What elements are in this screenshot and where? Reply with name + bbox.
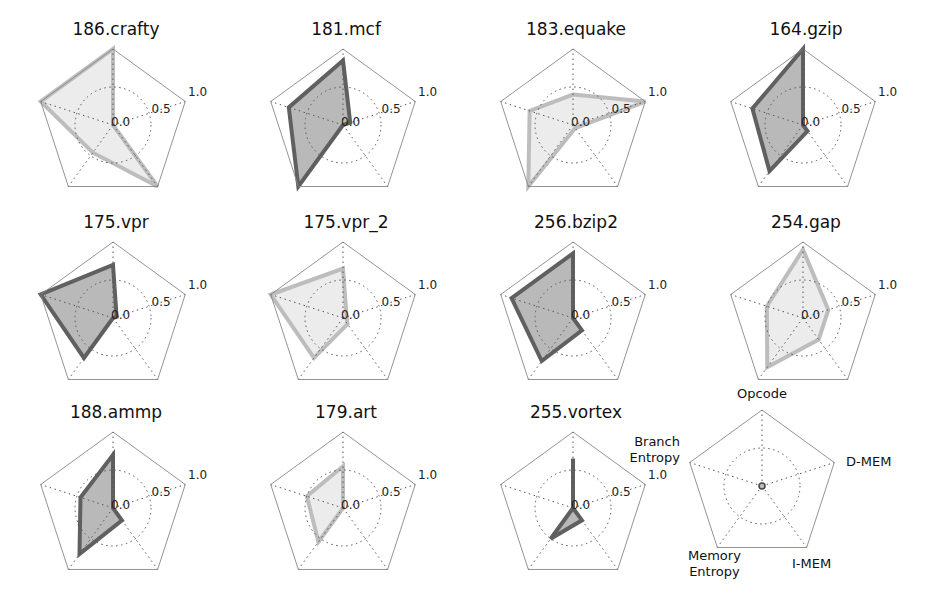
radar-panel: 254.gap0.00.51.0 — [690, 193, 922, 393]
data-polygon — [41, 49, 158, 186]
radar-panel: 186.crafty0.00.51.0 — [0, 0, 232, 200]
radar-svg: 0.00.51.0 — [690, 0, 922, 200]
radar-svg: 0.00.51.0 — [690, 193, 922, 393]
radar-chart-grid: 186.crafty0.00.51.0181.mcf0.00.51.0183.e… — [0, 0, 929, 604]
radial-tick-label: 0.0 — [341, 115, 360, 129]
radial-tick-label: 0.5 — [152, 485, 171, 499]
radial-tick-label: 0.5 — [152, 295, 171, 309]
radial-tick-label: 0.5 — [842, 295, 861, 309]
axis-label: I-MEM — [792, 556, 831, 571]
radial-tick-label: 0.0 — [341, 308, 360, 322]
radial-tick-label: 1.0 — [648, 85, 667, 99]
radial-tick-label: 1.0 — [418, 278, 437, 292]
radial-tick-label: 1.0 — [188, 278, 207, 292]
radial-tick-label: 0.0 — [801, 115, 820, 129]
radar-svg: 0.00.51.0 — [230, 0, 462, 200]
radar-panel: 164.gzip0.00.51.0 — [690, 0, 922, 200]
axis-legend-panel: OpcodeD-MEMI-MEMMemoryEntropyBranchEntro… — [690, 383, 922, 583]
radial-tick-label: 0.0 — [571, 498, 590, 512]
radial-tick-label: 0.5 — [612, 295, 631, 309]
radial-tick-label: 0.0 — [571, 308, 590, 322]
radial-tick-label: 1.0 — [878, 85, 897, 99]
axis-label: Entropy — [629, 450, 680, 465]
data-polygon — [41, 265, 117, 358]
radial-tick-label: 1.0 — [188, 85, 207, 99]
radar-panel: 256.bzip20.00.51.0 — [460, 193, 692, 393]
radial-tick-label: 1.0 — [648, 468, 667, 482]
radar-svg: 0.00.51.0 — [230, 193, 462, 393]
radar-svg: 0.00.51.0 — [460, 383, 692, 583]
radar-svg: 0.00.51.0 — [0, 193, 232, 393]
radial-tick-label: 0.0 — [341, 498, 360, 512]
axis-label: Opcode — [737, 386, 787, 401]
radar-panel: 175.vpr_20.00.51.0 — [230, 193, 462, 393]
radial-tick-label: 1.0 — [878, 278, 897, 292]
axis-label: Entropy — [689, 564, 740, 579]
radial-tick-label: 0.5 — [382, 485, 401, 499]
radar-svg: 0.00.51.0 — [230, 383, 462, 583]
radar-panel: 255.vortex0.00.51.0 — [460, 383, 692, 583]
radar-svg: 0.00.51.0 — [460, 0, 692, 200]
radial-tick-label: 1.0 — [188, 468, 207, 482]
axis-label: Memory — [688, 548, 741, 563]
radar-panel: 181.mcf0.00.51.0 — [230, 0, 462, 200]
radar-panel: 183.equake0.00.51.0 — [460, 0, 692, 200]
radial-tick-label: 1.0 — [418, 468, 437, 482]
data-polygon — [271, 269, 348, 358]
radar-panel: 188.ammp0.00.51.0 — [0, 383, 232, 583]
radial-tick-label: 1.0 — [648, 278, 667, 292]
center-marker — [759, 483, 765, 489]
radial-tick-label: 0.0 — [111, 308, 130, 322]
radial-tick-label: 0.0 — [801, 308, 820, 322]
radial-tick-label: 0.0 — [111, 115, 130, 129]
radar-spoke — [717, 486, 762, 547]
radar-svg: 0.00.51.0 — [0, 383, 232, 583]
radar-svg: 0.00.51.0 — [0, 0, 232, 200]
radial-tick-label: 0.0 — [571, 115, 590, 129]
radial-tick-label: 0.5 — [152, 102, 171, 116]
radial-tick-label: 0.0 — [111, 498, 130, 512]
radial-tick-label: 0.5 — [382, 295, 401, 309]
radial-tick-label: 1.0 — [418, 85, 437, 99]
radial-tick-label: 0.5 — [612, 485, 631, 499]
radar-panel: 179.art0.00.51.0 — [230, 383, 462, 583]
radial-tick-label: 0.5 — [382, 102, 401, 116]
data-polygon — [752, 49, 807, 171]
legend-svg: OpcodeD-MEMI-MEMMemoryEntropyBranchEntro… — [690, 383, 922, 603]
radial-tick-label: 0.5 — [612, 102, 631, 116]
radial-tick-label: 0.5 — [842, 102, 861, 116]
axis-label: Branch — [634, 434, 680, 449]
axis-label: D-MEM — [846, 454, 891, 469]
radar-panel: 175.vpr0.00.51.0 — [0, 193, 232, 393]
radar-svg: 0.00.51.0 — [460, 193, 692, 393]
